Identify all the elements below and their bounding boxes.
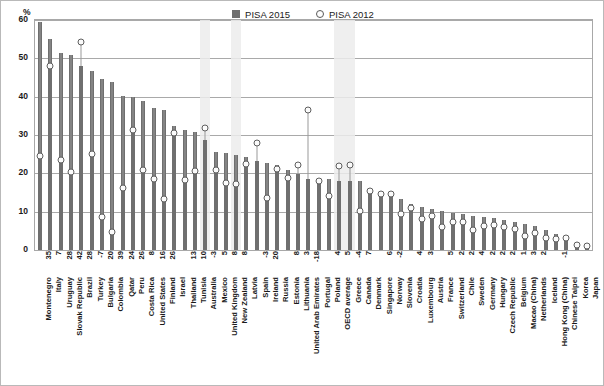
chart-column[interactable] [241, 20, 251, 250]
chart-column[interactable] [148, 20, 158, 250]
marker-pisa-2012 [387, 190, 394, 197]
x-axis-difference-value: 26 [167, 251, 176, 259]
chart-column[interactable] [169, 20, 179, 250]
chart-column[interactable] [138, 20, 148, 250]
x-axis-difference-value: 42 [75, 251, 84, 259]
x-axis-difference-value: 7 [54, 251, 63, 255]
x-axis-category-label: Slovenia [405, 277, 414, 308]
marker-pisa-2012 [470, 226, 477, 233]
chart-column[interactable] [448, 20, 458, 250]
chart-column[interactable] [262, 20, 272, 250]
x-axis-difference-value: 8 [229, 251, 238, 255]
x-axis-category-label: France [446, 277, 455, 302]
chart-column[interactable] [56, 20, 66, 250]
chart-column[interactable] [35, 20, 45, 250]
x-axis-difference-value: -1 [559, 251, 568, 258]
marker-pisa-2012 [264, 195, 271, 202]
x-axis-difference-value: 8 [291, 251, 300, 255]
marker-pisa-2012 [367, 188, 374, 195]
chart-column[interactable] [200, 20, 210, 250]
x-axis-difference-value: 16 [157, 251, 166, 259]
chart-column[interactable] [66, 20, 76, 250]
chart-column[interactable] [468, 20, 478, 250]
chart-column[interactable] [561, 20, 571, 250]
chart-column[interactable] [479, 20, 489, 250]
chart-column[interactable] [128, 20, 138, 250]
chart-column[interactable] [355, 20, 365, 250]
chart-column[interactable] [365, 20, 375, 250]
chart-column[interactable] [417, 20, 427, 250]
chart-column[interactable] [293, 20, 303, 250]
chart-column[interactable] [118, 20, 128, 250]
chart-column[interactable] [489, 20, 499, 250]
y-axis-tick-label: 20 [1, 167, 31, 177]
chart-column[interactable] [540, 20, 550, 250]
chart-column[interactable] [344, 20, 354, 250]
x-axis-category-label: Tunisia [198, 277, 207, 303]
bar-pisa-2015 [296, 174, 300, 250]
x-axis-category-label: United States [157, 277, 166, 326]
x-axis-category-label: Qatar [126, 277, 135, 297]
chart-column[interactable] [509, 20, 519, 250]
chart-column[interactable] [324, 20, 334, 250]
x-axis-difference-value: 4 [477, 251, 486, 255]
chart-column[interactable] [530, 20, 540, 250]
x-axis-difference-value: 5 [343, 251, 352, 255]
chart-column[interactable] [427, 20, 437, 250]
chart-column[interactable] [190, 20, 200, 250]
x-axis-category-label: Belgium [518, 277, 527, 307]
marker-stem [91, 71, 92, 154]
x-axis-difference-value: 35 [44, 251, 53, 259]
chart-column[interactable] [582, 20, 592, 250]
chart-column[interactable] [87, 20, 97, 250]
marker-pisa-2012 [212, 167, 219, 174]
chart-column[interactable] [314, 20, 324, 250]
y-axis-tick-label: 60 [1, 14, 31, 24]
x-axis-category-label: Bulgaria [106, 277, 115, 307]
chart-column[interactable] [437, 20, 447, 250]
x-axis-category-label: Spain [260, 277, 269, 298]
marker-pisa-2012 [491, 221, 498, 228]
chart-column[interactable] [386, 20, 396, 250]
x-axis-difference-value: 2 [539, 251, 548, 255]
chart-column[interactable] [252, 20, 262, 250]
bar-pisa-2015 [244, 157, 248, 250]
x-axis-difference-value: -7 [95, 251, 104, 258]
bar-pisa-2015 [203, 140, 207, 250]
chart-column[interactable] [107, 20, 117, 250]
chart-column[interactable] [396, 20, 406, 250]
chart-column[interactable] [551, 20, 561, 250]
chart-column[interactable] [272, 20, 282, 250]
marker-pisa-2012 [573, 241, 580, 248]
x-axis-category-label: Mexico [219, 277, 228, 303]
x-axis-category-label: Canada [363, 277, 372, 304]
marker-pisa-2012 [532, 230, 539, 237]
chart-column[interactable] [520, 20, 530, 250]
chart-column[interactable] [499, 20, 509, 250]
marker-stem [163, 110, 164, 199]
legend-item-pisa-2015: PISA 2015 [232, 9, 290, 20]
chart-column[interactable] [221, 20, 231, 250]
x-axis-category-label: Netherlands [539, 277, 548, 321]
marker-pisa-2012 [583, 242, 590, 249]
chart-column[interactable] [458, 20, 468, 250]
x-axis-difference-value: 3 [528, 251, 537, 255]
chart-column[interactable] [334, 20, 344, 250]
chart-column[interactable] [375, 20, 385, 250]
marker-stem [71, 55, 72, 173]
x-axis-category-label: Czech Republic [508, 277, 517, 334]
marker-stem [359, 181, 360, 211]
chart-column[interactable] [76, 20, 86, 250]
chart-column[interactable] [45, 20, 55, 250]
chart-column[interactable] [210, 20, 220, 250]
chart-column[interactable] [179, 20, 189, 250]
x-axis-difference-value: 8 [240, 251, 249, 255]
chart-column[interactable] [571, 20, 581, 250]
chart-column[interactable] [283, 20, 293, 250]
chart-column[interactable] [231, 20, 241, 250]
chart-column[interactable] [406, 20, 416, 250]
chart-column[interactable] [303, 20, 313, 250]
chart-column[interactable] [97, 20, 107, 250]
x-axis-category-label: Australia [209, 277, 218, 310]
chart-column[interactable] [159, 20, 169, 250]
